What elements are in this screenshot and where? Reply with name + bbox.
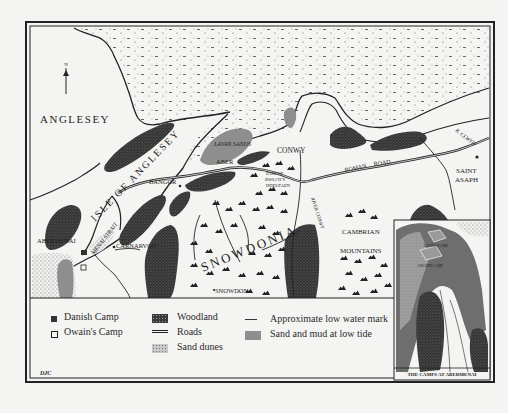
label-bangor: BANGOR xyxy=(149,178,177,185)
coastline-west xyxy=(30,163,100,200)
label-aber: ABER xyxy=(216,158,234,165)
label-mountains: MOUNTAINS xyxy=(340,247,382,255)
legend-danish-camp-label: Danish Camp xyxy=(64,311,119,322)
north-label: N xyxy=(64,62,68,67)
label-pass-line2: BWLCH Y xyxy=(265,177,286,182)
label-conwy: CONWY xyxy=(277,146,306,155)
legend-roads-swatch xyxy=(152,330,168,333)
legend-owains-camp-swatch xyxy=(51,331,58,338)
legend-woodland-label: Woodland xyxy=(177,311,218,322)
credit-label: DJC xyxy=(39,370,52,376)
sand-mud-abermenai xyxy=(57,259,73,298)
legend-roads-label: Roads xyxy=(177,326,202,337)
danish-camp-marker xyxy=(81,250,87,255)
label-pass-line3: DDEUFAEN xyxy=(266,183,291,188)
label-lavan-sands: LAVAN SANDS xyxy=(213,141,251,147)
inset-label-danish-camp: DANISH CAMP xyxy=(424,244,448,248)
label-asaph: ASAPH xyxy=(455,176,478,184)
inset-label-owains-camp: OWAIN'S CAMP xyxy=(418,264,443,268)
label-anglesey: ANGLESEY xyxy=(40,113,110,125)
label-saint: SAINT xyxy=(456,167,477,175)
bangor-dot xyxy=(179,185,182,188)
legend-sand-dunes-swatch xyxy=(152,344,168,353)
inset-camps-at-abermenai: DANISH CAMP OWAIN'S CAMP THE CAMPS AT AB… xyxy=(394,220,490,380)
map-canvas: N ANGLESEY ISLE OF ANGLESEY MENAI STRAIT… xyxy=(0,0,508,413)
saint-asaph-dot xyxy=(475,155,478,158)
label-roman-road-2: ROAD xyxy=(373,159,391,167)
label-cambrian: CAMBRIAN xyxy=(342,228,380,236)
label-pass-line1: PASS OF xyxy=(266,171,284,176)
owains-camp-marker xyxy=(81,265,86,270)
legend-danish-camp-swatch xyxy=(51,316,57,322)
legend-owains-camp-label: Owain's Camp xyxy=(64,326,123,337)
carnarvon-dot xyxy=(113,246,116,249)
label-carnarvon: CARNARVON xyxy=(116,242,157,249)
legend-woodland-swatch xyxy=(152,314,168,323)
legend-low-water-label: Approximate low water mark xyxy=(270,313,388,324)
label-snowdon: SNOWDON xyxy=(215,287,249,294)
label-r-clwyd: R. CLWYD xyxy=(454,126,478,146)
legend-low-water-swatch xyxy=(245,319,257,320)
inset-title: THE CAMPS AT ABERMENAI xyxy=(407,372,476,377)
north-arrow: N xyxy=(63,62,69,94)
legend-sand-mud-label: Sand and mud at low tide xyxy=(270,328,372,339)
legend-sand-mud-swatch xyxy=(245,331,261,340)
label-abermenai: ABERMENAI xyxy=(37,237,76,244)
legend-sand-dunes-label: Sand dunes xyxy=(177,341,223,352)
label-menai-strait: MENAI STRAIT xyxy=(89,221,119,257)
